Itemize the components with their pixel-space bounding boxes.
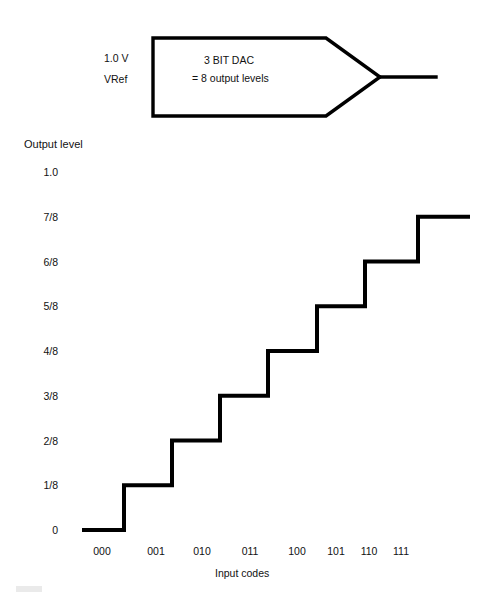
- scan-artifact-mark: [16, 586, 42, 592]
- staircase-polyline: [82, 217, 470, 530]
- dac-transfer-figure: 1.0 V VRef 3 BIT DAC = 8 output levels O…: [0, 0, 490, 597]
- dac-staircase-waveform: [0, 0, 490, 597]
